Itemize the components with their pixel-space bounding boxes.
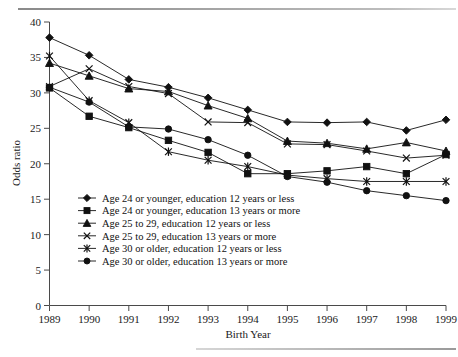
data-point-x-star [165, 148, 172, 156]
data-point-circle [46, 84, 52, 90]
y-tick-label: 35 [30, 51, 42, 63]
data-point-circle [84, 258, 90, 264]
x-tick-label: 1999 [435, 313, 458, 325]
figure-page: 0510152025303540 Odds ratio 198919901991… [0, 0, 458, 357]
data-point-diamond [204, 94, 212, 102]
legend-item-1: Age 24 or younger, education 12 years or… [78, 193, 294, 204]
data-point-triangle [402, 138, 410, 145]
legend-label: Age 25 to 29, education 13 years or more [102, 231, 276, 242]
legend-label: Age 30 or older, education 13 years or m… [102, 256, 288, 267]
y-axis-title: Odds ratio [10, 139, 22, 186]
y-tick-label: 30 [30, 87, 42, 99]
x-tick-label: 1997 [356, 313, 379, 325]
legend-item-4: Age 25 to 29, education 13 years or more [78, 231, 276, 242]
x-tick-label: 1995 [276, 313, 299, 325]
y-tick-label: 20 [30, 158, 42, 170]
data-point-square [165, 137, 171, 143]
x-tick-label: 1989 [39, 313, 62, 325]
legend-label: Age 25 to 29, education 12 years or less [102, 218, 270, 229]
x-tick-label: 1994 [237, 313, 260, 325]
y-tick-label: 10 [30, 229, 42, 241]
legend-item-2: Age 24 or younger, education 13 years or… [78, 205, 300, 216]
data-point-diamond [125, 76, 133, 84]
data-point-circle [403, 192, 409, 198]
data-point-circle [126, 124, 132, 130]
series-6 [46, 84, 449, 204]
data-point-circle [205, 136, 211, 142]
legend-label: Age 24 or younger, education 12 years or… [102, 193, 294, 204]
x-tick-label: 1993 [197, 313, 220, 325]
series-line [50, 88, 447, 174]
data-point-circle [364, 187, 370, 193]
y-tick-label: 40 [30, 16, 42, 28]
data-point-diamond [403, 127, 411, 135]
data-point-diamond [323, 119, 331, 127]
data-point-diamond [284, 118, 292, 126]
x-tick-label: 1996 [316, 313, 339, 325]
data-point-circle [284, 173, 290, 179]
legend-label: Age 24 or younger, education 13 years or… [102, 205, 300, 216]
data-point-circle [245, 152, 251, 158]
data-point-triangle [85, 72, 93, 79]
data-point-square [205, 149, 211, 155]
y-tick-label: 0 [36, 300, 42, 312]
x-tick-label: 1992 [157, 313, 179, 325]
y-tick-label: 15 [30, 193, 42, 205]
series-line [50, 87, 447, 200]
data-point-circle [165, 126, 171, 132]
x-axis-title: Birth Year [225, 328, 271, 340]
x-axis: 1989199019911992199319941995199619971998… [39, 306, 458, 341]
legend-item-3: Age 25 to 29, education 12 years or less [78, 218, 270, 229]
data-point-square [84, 208, 90, 214]
series-layer [46, 34, 451, 204]
data-point-square [86, 113, 92, 119]
legend-item-5: Age 30 or older, education 12 years or l… [78, 243, 281, 254]
legend-label: Age 30 or older, education 12 years or l… [102, 243, 281, 254]
x-tick-label: 1990 [78, 313, 101, 325]
data-point-triangle [204, 102, 212, 109]
y-tick-label: 5 [36, 264, 42, 276]
line-chart: 0510152025303540 Odds ratio 198919901991… [0, 0, 458, 357]
data-point-x-star [46, 52, 53, 60]
data-point-diamond [244, 106, 252, 114]
y-tick-label: 25 [30, 122, 42, 134]
data-point-diamond [83, 194, 90, 201]
chart-legend: Age 24 or younger, education 12 years or… [78, 193, 300, 267]
data-point-circle [86, 99, 92, 105]
data-point-circle [324, 179, 330, 185]
y-axis: 0510152025303540 Odds ratio [10, 16, 50, 312]
data-point-square [324, 168, 330, 174]
data-point-square [403, 170, 409, 176]
data-point-diamond [442, 116, 450, 124]
data-point-diamond [46, 34, 54, 42]
data-point-square [245, 170, 251, 176]
chart-svg: 0510152025303540 Odds ratio 198919901991… [0, 0, 458, 357]
x-tick-label: 1998 [395, 313, 418, 325]
data-point-circle [443, 197, 449, 203]
data-point-diamond [85, 52, 93, 60]
x-tick-label: 1991 [118, 313, 140, 325]
legend-item-6: Age 30 or older, education 13 years or m… [78, 256, 288, 267]
data-point-diamond [363, 118, 371, 126]
data-point-square [364, 163, 370, 169]
